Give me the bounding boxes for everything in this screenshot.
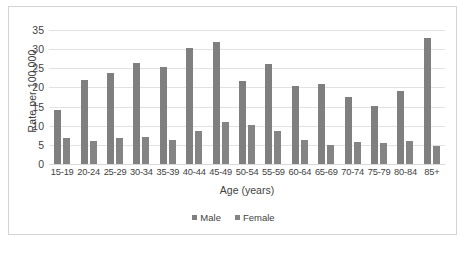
bar-male-40-44 <box>186 48 193 164</box>
bar-female-80-84 <box>406 141 413 164</box>
x-axis-tick-label: 25-29 <box>102 167 128 177</box>
x-axis-tick-label: 55-59 <box>260 167 286 177</box>
gridline <box>49 164 445 165</box>
legend-label: Female <box>243 212 275 223</box>
x-axis-ticks: 15-1920-2425-2930-3435-3940-4445-4950-54… <box>49 167 445 177</box>
bar-female-65-69 <box>327 145 334 164</box>
bar-group <box>313 30 339 164</box>
legend-item-female[interactable]: Female <box>235 212 275 223</box>
bar-group <box>49 30 75 164</box>
bar-group <box>102 30 128 164</box>
bar-male-55-59 <box>265 64 272 164</box>
x-axis-tick-label: 70-74 <box>339 167 365 177</box>
bar-male-45-49 <box>213 42 220 164</box>
y-axis-tick-label: 20 <box>32 82 44 93</box>
y-axis-tick-label: 35 <box>32 25 44 36</box>
bar-male-50-54 <box>239 81 246 164</box>
bar-group <box>287 30 313 164</box>
bar-male-15-19 <box>54 110 61 164</box>
bar-male-60-64 <box>292 86 299 164</box>
bar-group <box>234 30 260 164</box>
x-axis-tick-label: 85+ <box>419 167 445 177</box>
legend-swatch-icon <box>192 215 197 220</box>
bar-group <box>128 30 154 164</box>
bar-group <box>339 30 365 164</box>
y-axis-tick-label: 15 <box>32 101 44 112</box>
bar-female-85+ <box>433 146 440 164</box>
x-axis-tick-label: 40-44 <box>181 167 207 177</box>
figure: Rate per 100,000 05101520253035 15-1920-… <box>0 0 465 253</box>
x-axis-tick-label: 30-34 <box>128 167 154 177</box>
x-axis-tick-label: 60-64 <box>287 167 313 177</box>
bar-male-65-69 <box>318 84 325 164</box>
bar-female-35-39 <box>169 140 176 164</box>
legend-label: Male <box>200 212 221 223</box>
y-axis-tick-label: 30 <box>32 44 44 55</box>
bar-group <box>207 30 233 164</box>
bar-male-70-74 <box>345 97 352 164</box>
y-axis-tick-label: 5 <box>38 140 44 151</box>
legend-item-male[interactable]: Male <box>192 212 221 223</box>
bar-group <box>181 30 207 164</box>
x-axis-tick-label: 35-39 <box>155 167 181 177</box>
bar-female-25-29 <box>116 138 123 164</box>
bar-female-15-19 <box>63 138 70 164</box>
y-axis-tick-label: 25 <box>32 63 44 74</box>
bar-male-25-29 <box>107 73 114 164</box>
bar-group <box>260 30 286 164</box>
bar-female-30-34 <box>142 137 149 164</box>
bar-groups <box>49 30 445 164</box>
bar-male-35-39 <box>160 67 167 164</box>
y-axis-tick-label: 10 <box>32 120 44 131</box>
x-axis-tick-label: 20-24 <box>75 167 101 177</box>
x-axis-title: Age (years) <box>49 184 445 196</box>
bar-male-20-24 <box>81 80 88 164</box>
x-axis-tick-label: 75-79 <box>366 167 392 177</box>
bar-male-80-84 <box>397 91 404 165</box>
chart-frame: Rate per 100,000 05101520253035 15-1920-… <box>8 6 457 235</box>
bar-female-50-54 <box>248 125 255 164</box>
bar-female-40-44 <box>195 131 202 164</box>
bar-group <box>366 30 392 164</box>
bar-female-20-24 <box>90 141 97 164</box>
x-axis-tick-label: 65-69 <box>313 167 339 177</box>
bar-male-75-79 <box>371 106 378 164</box>
legend-swatch-icon <box>235 215 240 220</box>
bar-female-55-59 <box>274 131 281 164</box>
bar-female-60-64 <box>301 140 308 164</box>
x-axis-tick-label: 15-19 <box>49 167 75 177</box>
bar-male-85+ <box>424 38 431 164</box>
plot-area: 05101520253035 <box>49 30 445 164</box>
bar-group <box>155 30 181 164</box>
x-axis-tick-label: 45-49 <box>207 167 233 177</box>
bar-female-70-74 <box>354 142 361 164</box>
x-axis-tick-label: 50-54 <box>234 167 260 177</box>
x-axis-tick-label: 80-84 <box>392 167 418 177</box>
y-axis-tick-label: 0 <box>38 159 44 170</box>
legend: MaleFemale <box>9 212 458 223</box>
bar-male-30-34 <box>133 63 140 164</box>
bar-group <box>75 30 101 164</box>
bar-group <box>419 30 445 164</box>
bar-group <box>392 30 418 164</box>
bar-female-45-49 <box>222 122 229 164</box>
bar-female-75-79 <box>380 143 387 164</box>
